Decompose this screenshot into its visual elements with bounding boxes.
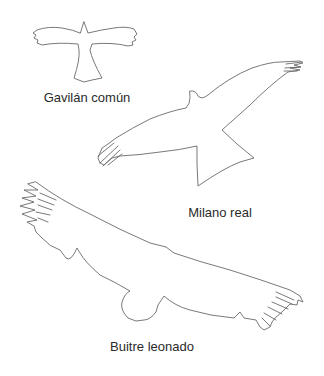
milano-silhouette bbox=[98, 61, 303, 186]
label-gavilan-comun: Gavilán común bbox=[44, 90, 131, 105]
milano-feathers bbox=[98, 62, 302, 166]
buitre-feathers bbox=[36, 193, 294, 326]
label-buitre-leonado: Buitre leonado bbox=[110, 339, 194, 354]
gavilan-silhouette bbox=[33, 22, 137, 82]
buitre-silhouette bbox=[20, 182, 303, 330]
label-milano-real: Milano real bbox=[188, 205, 252, 220]
bird-silhouettes bbox=[0, 0, 324, 376]
